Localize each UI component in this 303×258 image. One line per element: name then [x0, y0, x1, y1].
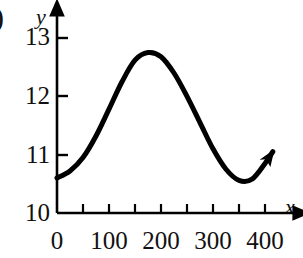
figure-panel: ) y x 13 12 11 10 0 100 200 300 400: [0, 0, 303, 258]
data-curve: [57, 52, 273, 181]
plot-area: [0, 0, 303, 258]
